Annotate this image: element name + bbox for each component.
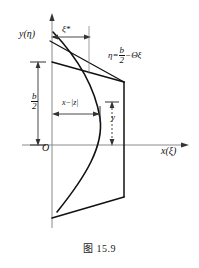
oblique-bottom-edge <box>52 197 124 218</box>
half-width-denominator: 2 <box>31 101 38 111</box>
parabola-curve <box>53 32 101 212</box>
equation-term: Θξ <box>131 50 141 60</box>
vertical-distance-dimension <box>105 101 119 146</box>
figure-caption: 图 15.9 <box>0 240 199 255</box>
figure-drawing <box>0 0 199 268</box>
x-axis-label: x(ξ) <box>161 146 176 156</box>
horizontal-distance-label: x−|z| <box>62 99 78 107</box>
y-axis-arrowhead <box>49 13 54 21</box>
axes-group <box>22 13 189 228</box>
xi-star-label: ξ* <box>62 25 70 34</box>
xi-star-arrow-right <box>84 35 91 40</box>
horizontal-distance-arrow-left <box>52 112 59 117</box>
y-axis-label: y(η) <box>19 29 35 39</box>
origin-label: O <box>42 143 49 153</box>
figure-container: y(η) ξ* η=b2−Θξ b2 x−|z| y O x(ξ) 图 15.9 <box>0 0 199 268</box>
half-width-numerator: b <box>31 92 38 101</box>
horizontal-distance-dimension <box>52 106 100 122</box>
equation-label: η=b2−Θξ <box>108 46 141 65</box>
half-width-label: b2 <box>31 92 38 111</box>
half-width-fraction: b2 <box>31 92 38 111</box>
vertical-distance-label: y <box>111 113 115 122</box>
x-axis-arrowhead <box>181 142 189 147</box>
